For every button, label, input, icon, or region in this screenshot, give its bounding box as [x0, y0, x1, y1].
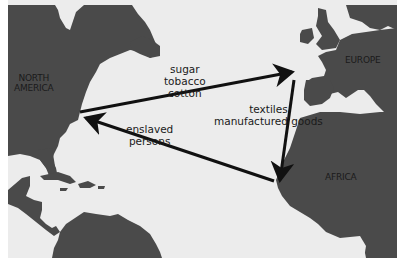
goods-item: cotton — [164, 87, 206, 99]
goods-item: textiles — [214, 103, 323, 115]
region-label-north-america: NORTH AMERICA — [14, 73, 54, 94]
region-label-line: EUROPE — [345, 55, 381, 65]
goods-item: sugar — [164, 63, 206, 75]
goods-item: persons — [126, 135, 173, 147]
bottom-margin — [0, 258, 397, 267]
region-label-europe: EUROPE — [345, 55, 381, 65]
region-label-line: AMERICA — [14, 83, 54, 93]
goods-item: tobacco — [164, 75, 206, 87]
left-margin — [0, 0, 8, 258]
region-label-africa: AFRICA — [325, 172, 356, 182]
goods-label-americas-to-europe: sugar tobacco cotton — [164, 63, 206, 99]
atlantic-map — [0, 0, 397, 267]
goods-item: enslaved — [126, 123, 173, 135]
region-label-line: NORTH — [14, 73, 54, 83]
goods-label-africa-to-americas: enslaved persons — [126, 123, 173, 147]
region-label-line: AFRICA — [325, 172, 356, 182]
puerto-rico — [98, 186, 105, 189]
goods-item: manufactured goods — [214, 115, 323, 127]
goods-label-europe-to-africa: textiles manufactured goods — [214, 103, 323, 127]
